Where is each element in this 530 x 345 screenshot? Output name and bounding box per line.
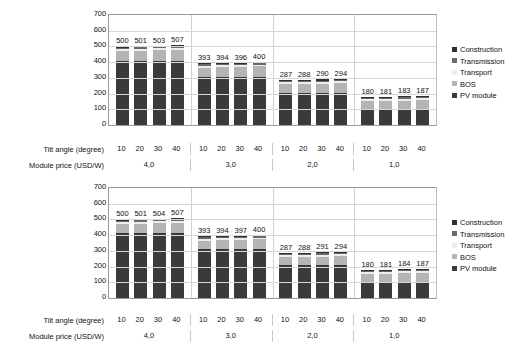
legend-item[interactable]: BOS [452,252,504,264]
chart-area-bottom: 0100200300400500600700 50050150450739339… [0,173,530,345]
bar-value-label: 400 [246,53,272,61]
bar-segment-stack: 288 [298,253,311,298]
legend-item[interactable]: PV module [452,90,504,102]
legend-item[interactable]: Construction [452,217,504,229]
tilt-angle-cell: 20 [294,314,312,326]
bar-segment [416,96,429,97]
bar-segment [116,221,129,222]
module-price-cell: 2,0 [272,330,354,342]
bar-segment [379,282,392,298]
bar-segment-stack: 503 [153,46,166,125]
tilt-angle-cell: 20 [131,314,149,326]
bar-segment [279,84,292,93]
bar-segment [216,64,229,65]
bar-value-label: 507 [164,36,190,44]
legend-item[interactable]: Transmission [452,56,504,68]
module-price-cell: 4,0 [108,330,190,342]
plot-area-bottom: 5005015045073933943974002872882912941801… [108,187,437,299]
bar-segment [116,233,129,298]
bar-segment [216,67,229,76]
module-price-row-cells-bottom: 4,03,02,01,0 [108,330,435,342]
bar-segment [216,249,229,298]
bar-segment-stack: 500 [116,46,129,125]
bar-segment-stack: 500 [116,219,129,298]
tilt-angle-cell: 10 [358,143,376,155]
row-divider [272,159,273,171]
bar-segment [398,269,411,270]
y-tick-label: 100 [78,277,106,285]
gridline [109,282,436,283]
legend-item[interactable]: Construction [452,44,504,56]
bar-segment [198,249,211,298]
bar-segment [316,81,329,82]
legend-item[interactable]: Transport [452,67,504,79]
bar-segment [334,80,347,81]
legend-item[interactable]: Transmission [452,229,504,241]
tilt-angle-cell: 40 [412,314,430,326]
bar-segment [416,271,429,273]
tilt-angle-cell: 20 [376,314,394,326]
bar-segment [361,110,374,125]
y-tick-label: 400 [78,57,106,65]
tilt-angle-cell: 20 [212,143,230,155]
bar-segment [216,65,229,67]
bar-segment [361,282,374,298]
legend-top: ConstructionTransmissionTransportBOSPV m… [452,44,504,102]
bar-segment [171,48,184,50]
bar-segment [279,82,292,84]
tilt-angle-cell: 40 [331,143,349,155]
bar-segment-stack: 181 [379,270,392,298]
row-divider [272,143,273,155]
bar-segment [116,222,129,224]
bar-segment [116,48,129,49]
bar-segment-stack: 291 [316,252,329,298]
bar-segment [198,241,211,250]
gridline [109,267,436,268]
bar-segment [398,273,411,282]
bar-segment [416,270,429,271]
y-tick-label: 500 [78,41,106,49]
module-price-row-cells-top: 4,03,02,01,0 [108,159,435,171]
bar-segment-stack: 184 [398,269,411,298]
bar-segment [216,63,229,64]
tilt-angle-cell: 20 [376,143,394,155]
bar-segment [116,51,129,61]
bar-segment [379,271,392,272]
module-price-row-label-bottom: Module price (USD/W) [4,332,104,341]
tilt-angle-cell: 40 [249,143,267,155]
gridline [109,94,436,95]
bar-segment [279,254,292,255]
bar-segment [234,77,247,125]
chart-area-top: 0100200300400500600700 50050150350739339… [0,0,530,175]
bar-segment [298,253,311,254]
tilt-angle-cell: 10 [194,143,212,155]
bar-segment [253,249,266,298]
bar-segment [398,99,411,101]
stacked-bar-chart-top: 0100200300400500600700 50050150350739339… [0,0,530,175]
bar-value-label: 294 [328,70,354,78]
bar-segment [416,98,429,100]
module-price-cell: 2,0 [272,159,354,171]
tilt-angle-cell: 30 [394,143,412,155]
legend-item[interactable]: Transport [452,240,504,252]
legend-item[interactable]: BOS [452,79,504,91]
bar-segment [361,98,374,99]
row-divider [190,330,191,342]
bar-segment-stack: 187 [416,269,429,298]
bar-segment [298,82,311,84]
legend-label: Transmission [460,229,504,241]
legend-item[interactable]: PV module [452,263,504,275]
tilt-angle-row-label-top: Tilt angle (degree) [4,145,104,154]
bar-segment [379,110,392,125]
bar-segment [416,97,429,98]
bar-segment [234,65,247,67]
bar-segment [198,239,211,241]
bar-segment [234,240,247,249]
bar-segment-stack: 294 [334,79,347,125]
y-tick-label: 500 [78,214,106,222]
bar-segment [198,64,211,65]
bar-segment [316,82,329,84]
bar-segment [116,49,129,51]
legend-swatch-icon [452,70,457,75]
bar-segment [416,273,429,282]
